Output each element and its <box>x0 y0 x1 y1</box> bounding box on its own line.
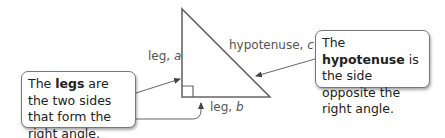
hypotenuse-variable: c <box>307 38 314 52</box>
right-triangle <box>182 9 270 97</box>
hypotenuse-callout-term: hypotenuse <box>322 52 405 67</box>
hypotenuse-callout: The hypotenuse is the side opposite the … <box>315 30 430 88</box>
leg-a-label: leg, a <box>148 49 181 63</box>
leg-a-variable: a <box>174 49 181 63</box>
legs-callout-text-before: The <box>28 76 55 91</box>
hypotenuse-callout-text-before: The <box>322 35 345 50</box>
legs-arrow-to-leg-a <box>136 79 180 93</box>
leg-b-label: leg, b <box>210 100 244 114</box>
leg-b-prefix: leg, <box>210 100 236 114</box>
hypotenuse-label: hypotenuse, c <box>229 38 314 52</box>
leg-a-prefix: leg, <box>148 49 174 63</box>
right-angle-marker <box>182 86 193 97</box>
hypotenuse-prefix: hypotenuse, <box>229 38 307 52</box>
hypotenuse-arrow <box>256 59 315 76</box>
leg-b-variable: b <box>236 100 244 114</box>
legs-arrow-to-leg-b <box>136 103 201 119</box>
legs-callout-term: legs <box>55 76 84 91</box>
legs-callout: The legs are the two sides that form the… <box>21 71 136 128</box>
